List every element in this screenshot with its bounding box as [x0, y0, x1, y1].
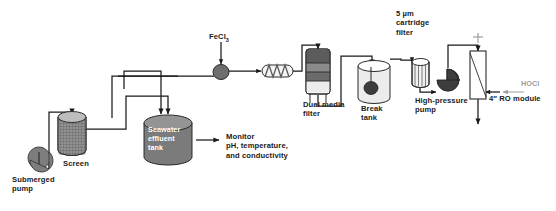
break-tank-label: Break tank [361, 104, 383, 123]
hocl-label: HOCl [521, 79, 539, 88]
submerged-pump-label: Submerged pump [12, 175, 55, 194]
dual-media-filter-label: Dual media filter [303, 100, 345, 119]
fecl3-subscript: 3 [226, 37, 229, 43]
flow-diagram-canvas [0, 0, 556, 211]
ro-module-vessel [470, 51, 486, 99]
cartridge-filter-vessel [412, 59, 429, 89]
pipe-breaktank-to-cartridge [390, 59, 412, 62]
screen-vessel [58, 112, 86, 156]
pipe-tank-to-dosing [112, 76, 214, 89]
dosing-pump [213, 65, 229, 80]
screen-label: Screen [63, 159, 89, 168]
process-flow-diagram: Submerged pump Screen Seawater effluent … [0, 0, 556, 211]
monitor-label: Monitor pH, temperature, and conductivit… [226, 132, 288, 160]
cartridge-filter-label: 5 µm cartridge filter [396, 9, 429, 37]
pipe-recycle-to-tank [124, 71, 161, 114]
fecl3-formula-text: FeCl [209, 32, 226, 41]
high-pressure-pump [437, 69, 459, 91]
break-tank-vessel [358, 61, 390, 104]
seawater-effluent-tank-label: Seawater effluent tank [148, 125, 180, 152]
dual-media-filter-vessel [306, 49, 330, 103]
fecl3-label: FeCl3 [209, 32, 229, 43]
ro-module-label: 4″ RO module [489, 94, 541, 103]
high-pressure-pump-label: High-pressure pump [415, 96, 468, 115]
static-mixer [262, 65, 293, 77]
